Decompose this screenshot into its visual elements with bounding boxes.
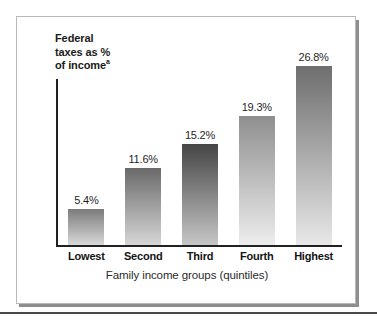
y-axis-title-line1: Federal: [55, 32, 93, 44]
x-tick-label-lowest: Lowest: [54, 250, 118, 262]
bar-second: [125, 168, 161, 245]
bar-third: [182, 144, 218, 245]
x-axis-title: Family income groups (quintiles): [17, 269, 357, 281]
x-tick-label-fourth: Fourth: [225, 250, 289, 262]
bar-group-highest: 26.8%: [296, 45, 332, 245]
x-tick-label-third: Third: [168, 250, 232, 262]
bar-value-label-highest: 26.8%: [298, 51, 328, 63]
bar-chart: Federal taxes as % of incomea 5.4%11.6%1…: [17, 17, 357, 305]
bar-group-lowest: 5.4%: [68, 45, 104, 245]
bar-group-third: 15.2%: [182, 45, 218, 245]
x-axis-tick-labels: LowestSecondThirdFourthHighest: [58, 250, 342, 266]
x-axis-line: [56, 245, 342, 247]
bar-group-second: 11.6%: [125, 45, 161, 245]
x-tick-label-highest: Highest: [282, 250, 346, 262]
bar-fourth: [239, 116, 275, 245]
x-tick-label-second: Second: [111, 250, 175, 262]
bar-value-label-fourth: 19.3%: [242, 101, 272, 113]
bar-value-label-lowest: 5.4%: [74, 194, 98, 206]
plot-area: 5.4%11.6%15.2%19.3%26.8%: [58, 45, 342, 245]
bar-value-label-second: 11.6%: [129, 153, 158, 165]
bar-group-fourth: 19.3%: [239, 45, 275, 245]
figure-frame: Federal taxes as % of incomea 5.4%11.6%1…: [16, 16, 356, 304]
bar-lowest: [68, 209, 104, 245]
bar-value-label-third: 15.2%: [185, 129, 215, 141]
page-bottom-rule: [0, 312, 377, 314]
bar-highest: [296, 66, 332, 245]
